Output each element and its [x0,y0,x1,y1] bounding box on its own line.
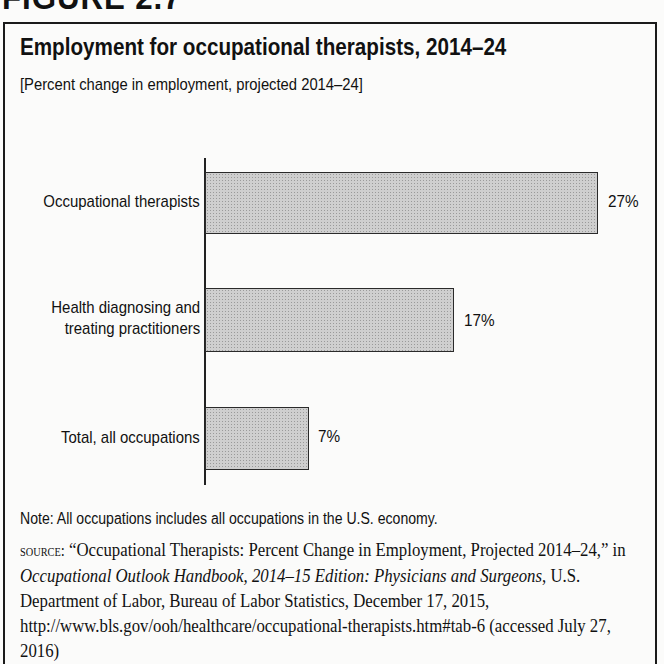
bar-value-label: 17% [464,311,495,331]
bar-label-line: treating practitioners [51,318,200,339]
bar-label-line: Health diagnosing and [51,297,200,318]
source-text-part1: “Occupational Therapists: Percent Change… [65,539,626,560]
source-citation: SOURCE: “Occupational Therapists: Percen… [20,537,639,663]
bar-value-label: 27% [608,192,639,212]
figure-label: FIGURE 2.7 [2,0,182,17]
chart-title: Employment for occupational therapists, … [20,33,506,61]
source-label: SOURCE: [20,541,65,560]
chart-note: Note: All occupations includes all occup… [20,510,438,528]
chart-subtitle: [Percent change in employment, projected… [20,75,363,95]
bar-label-occupational-therapists: Occupational therapists [44,191,200,212]
bar-label-total-all-occupations: Total, all occupations [61,427,200,448]
bar-occupational-therapists [205,172,598,234]
source-publication-title: Occupational Outlook Handbook, 2014–15 E… [20,565,542,586]
bar-label-line: Occupational therapists [44,192,200,211]
bar-total-all-occupations [205,407,309,470]
bar-label-health-practitioners: Health diagnosing and treating practitio… [51,297,200,339]
bar-label-line: Total, all occupations [61,428,200,447]
bar-health-practitioners [205,288,454,352]
bar-value-label: 7% [318,427,340,447]
